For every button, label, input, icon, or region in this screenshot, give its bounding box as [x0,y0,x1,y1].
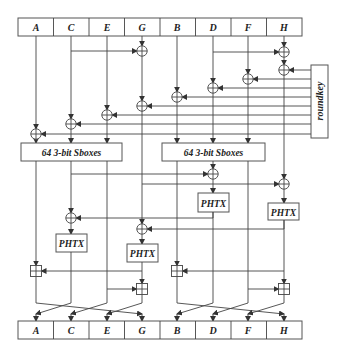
roundkey-label: roundkey [314,81,325,120]
phtx-box-c: PHTX [56,234,87,252]
sbox-right-label: 64 3-bit Sboxes [184,148,244,158]
xor-icon [137,101,147,111]
input-label-g: G [138,22,146,33]
xor-icon [31,129,41,139]
output-label-f: F [244,325,252,336]
svg-text:PHTX: PHTX [59,239,85,249]
xor-icon [102,110,112,120]
output-label-c: C [68,325,75,336]
xor-icon [279,65,289,75]
input-label-f: F [244,22,252,33]
roundkey-box: roundkey [311,65,328,138]
input-label-b: B [173,22,181,33]
xor-icon [279,47,289,57]
top-xor-nodes [31,46,289,139]
xor-icon [279,179,289,189]
xor-icon [243,74,253,84]
svg-text:PHTX: PHTX [130,249,156,259]
xor-icon [66,213,76,223]
input-label-d: D [208,22,216,33]
output-register-row: A C E G B D F H [18,321,302,339]
sbox-right: 64 3-bit Sboxes [162,143,265,161]
output-label-g: G [138,325,146,336]
output-label-d: D [208,325,216,336]
middle-xor-nodes [66,169,289,234]
sbox-left: 64 3-bit Sboxes [21,143,122,161]
modular-add-icon [172,266,183,277]
sbox-left-label: 64 3-bit Sboxes [42,148,102,158]
modular-add-icon [31,266,42,277]
xor-icon [172,92,182,102]
phtx-box-h: PHTX [268,203,299,220]
output-label-a: A [32,325,40,336]
cipher-round-diagram: A C E G B D F H roundkey [0,0,346,360]
modular-add-icon [137,284,148,295]
input-label-h: H [279,22,289,33]
xor-icon [137,224,147,234]
svg-text:PHTX: PHTX [271,208,297,218]
phtx-box-g: PHTX [127,244,158,262]
input-label-a: A [32,22,40,33]
phtx-box-d: PHTX [198,193,229,212]
input-label-c: C [68,22,75,33]
middle-wires [36,75,284,303]
output-label-h: H [279,325,289,336]
svg-text:PHTX: PHTX [201,199,227,209]
input-label-e: E [103,22,111,33]
modular-add-nodes [31,266,290,295]
bottom-wires [36,212,284,321]
xor-icon [208,169,218,179]
xor-icon [208,83,218,93]
modular-add-icon [279,284,290,295]
output-label-e: E [103,325,111,336]
xor-icon [137,46,147,56]
input-register-row: A C E G B D F H [18,18,302,36]
output-label-b: B [173,325,181,336]
xor-icon [66,119,76,129]
